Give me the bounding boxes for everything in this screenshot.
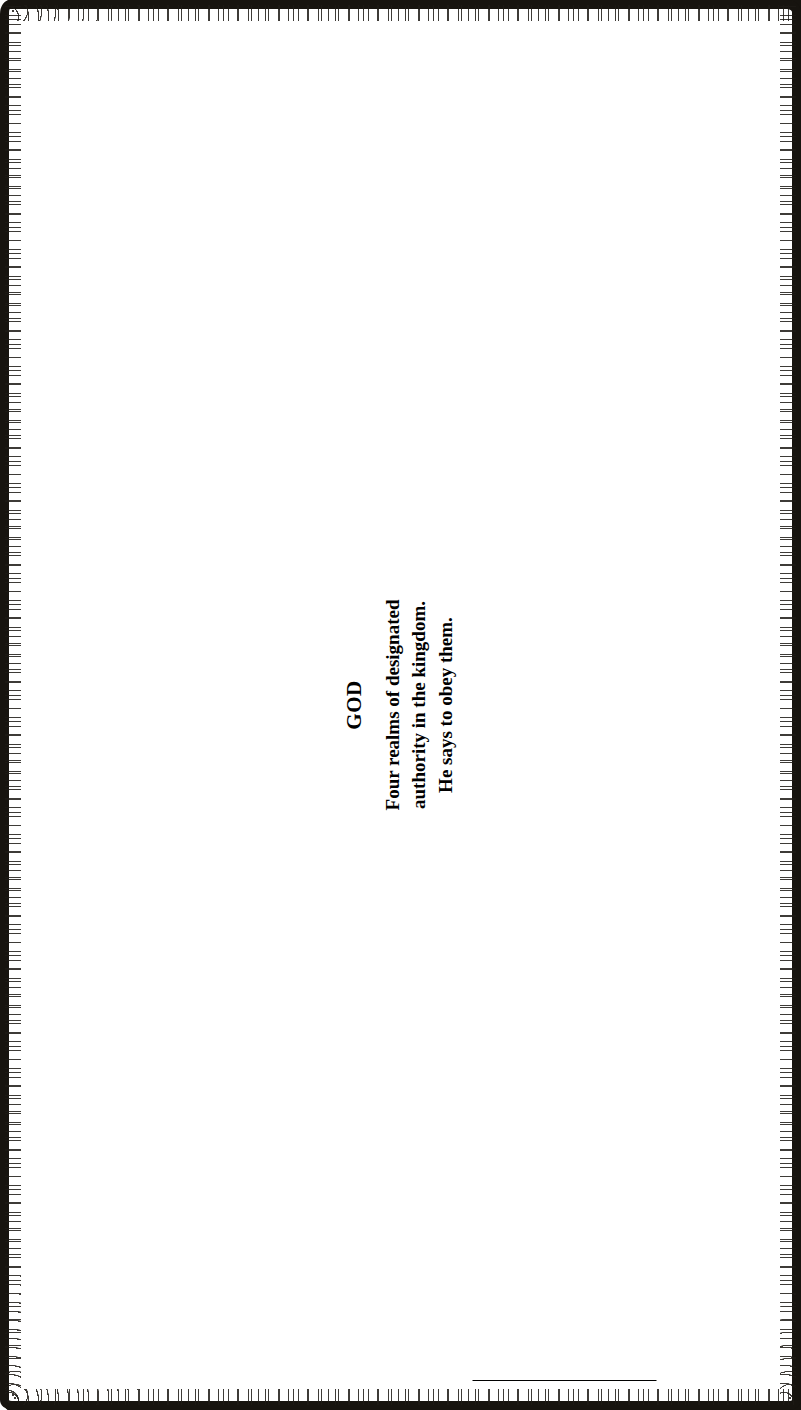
tablet-text: GOD Four realms of designated authority … [26, 30, 775, 1380]
diagram-canvas: GOD Four realms of designated authority … [0, 0, 801, 1410]
god-heading: GOD [342, 680, 367, 729]
tablet-line-2: authority in the kingdom. [406, 601, 432, 809]
tablet-line-1: Four realms of designated [380, 600, 406, 811]
god-tablet: GOD Four realms of designated authority … [0, 986, 210, 1410]
tablet-line-3: He says to obey them. [433, 617, 459, 793]
